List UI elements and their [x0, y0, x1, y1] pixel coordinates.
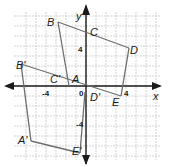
y-tick-4: 4 [78, 45, 83, 54]
x-tick-4: 4 [124, 89, 129, 98]
vertex-label-B-prime: B' [16, 59, 26, 71]
y-tick-neg4: -4 [76, 120, 84, 129]
y-axis-arrow-up [82, 4, 90, 15]
vertex-label-D-prime: D' [90, 91, 101, 103]
x-tick-neg4: -4 [42, 89, 50, 98]
x-axis-arrow-left [4, 82, 14, 90]
y-axis-arrow-down [82, 155, 90, 165]
vertex-label-D: D [130, 44, 138, 56]
vertex-label-A-prime: A' [17, 134, 28, 146]
vertex-label-B: B [47, 16, 54, 28]
vertex-label-C: C [90, 26, 98, 38]
vertex-label-E: E [112, 96, 120, 108]
vertex-label-C-prime: C' [50, 73, 61, 85]
x-axis-arrow-right [152, 82, 162, 90]
x-axis-label: x [152, 90, 159, 102]
coordinate-plane: y x 0 4 -4 4 -4 B C D A E B' C' D' A' E' [0, 0, 169, 167]
vertex-label-E-prime: E' [72, 145, 82, 157]
origin-label: 0 [79, 89, 84, 98]
vertex-label-A: A [71, 73, 79, 85]
